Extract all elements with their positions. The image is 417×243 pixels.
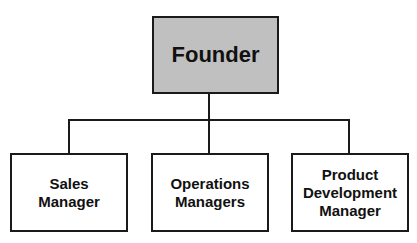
- root-connector-line: [208, 93, 210, 121]
- operations-connector-line: [208, 119, 210, 154]
- sales-manager-label: Sales Manager: [38, 175, 100, 211]
- product-development-manager-node: Product Development Manager: [291, 153, 409, 232]
- founder-node: Founder: [152, 16, 279, 94]
- sales-connector-line: [68, 119, 70, 154]
- product-development-manager-label: Product Development Manager: [303, 166, 397, 220]
- operations-managers-node: Operations Managers: [151, 153, 269, 232]
- founder-label: Founder: [172, 42, 260, 68]
- sales-manager-node: Sales Manager: [10, 153, 128, 232]
- operations-managers-label: Operations Managers: [170, 175, 249, 211]
- product-connector-line: [348, 119, 350, 154]
